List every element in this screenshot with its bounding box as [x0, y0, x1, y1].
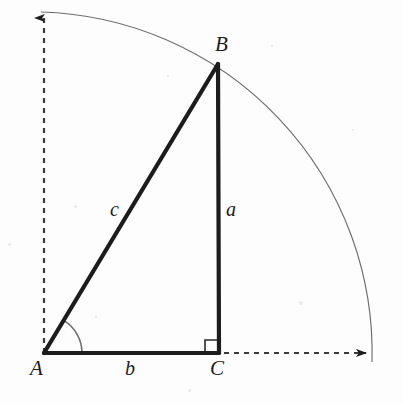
right-angle-marker-at-C: [205, 340, 217, 352]
scan-speck: [167, 75, 169, 77]
vertex-label-B: B: [215, 34, 228, 55]
figure-canvas: [0, 0, 403, 403]
scan-speck: [188, 389, 191, 392]
vertex-label-C: C: [210, 358, 224, 379]
side-label-b: b: [125, 358, 135, 378]
scan-speck: [352, 129, 354, 131]
angle-arc-at-A: [64, 320, 82, 353]
scan-speck: [95, 316, 97, 318]
triangle-side-a: [218, 64, 219, 353]
vertex-label-A: A: [30, 358, 43, 379]
side-label-c: c: [110, 199, 119, 219]
scan-speck: [74, 205, 77, 208]
scan-speck: [271, 45, 273, 47]
triangle-side-c: [44, 64, 218, 353]
geometry-figure: A B C a b c: [0, 0, 403, 403]
scan-speck: [299, 301, 303, 305]
quarter-circle-arc: [41, 12, 372, 362]
scan-speck: [8, 243, 11, 246]
side-label-a: a: [226, 199, 236, 219]
